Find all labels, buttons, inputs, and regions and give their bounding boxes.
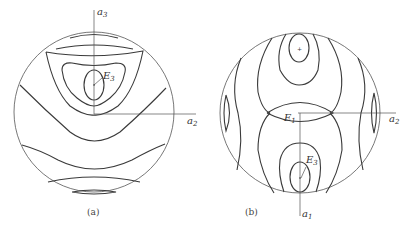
label-e1: E1 <box>283 112 296 125</box>
contour-b-left-cap <box>224 95 230 131</box>
panel-a: a3 a2 E3 (a) <box>14 6 198 217</box>
contour-b-right-1 <box>358 58 365 170</box>
label-a2: a2 <box>187 115 198 128</box>
pointer-e3-b <box>301 167 306 178</box>
figure: a3 a2 E3 (a) + <box>0 0 419 231</box>
point-e3-b <box>299 177 301 179</box>
label-a2-b: a2 <box>389 113 400 126</box>
label-a3: a3 <box>97 6 108 19</box>
point-e3-a <box>93 84 95 86</box>
contour-a-2 <box>22 144 165 169</box>
caption-b: (b) <box>245 207 258 217</box>
panel-b: + E1 a2 E3 a1 <box>220 33 400 221</box>
caption-a: (a) <box>87 207 99 217</box>
contour-b-left-1 <box>235 58 241 170</box>
label-e3-b: E3 <box>305 154 318 167</box>
label-a1: a1 <box>302 208 312 221</box>
point-b-top: + <box>297 45 302 52</box>
contour-a-top-band <box>56 45 133 49</box>
contour-a-1 <box>20 85 166 141</box>
contour-a-3 <box>48 177 140 182</box>
contour-b-top-u <box>279 34 319 85</box>
pointer-e3-a <box>94 78 102 85</box>
